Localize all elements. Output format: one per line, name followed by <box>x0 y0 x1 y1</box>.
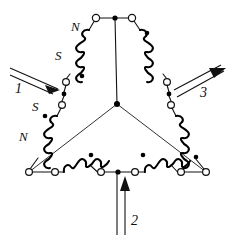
star-legs-group <box>29 104 206 172</box>
terminal-left-upper[interactable] <box>63 79 70 86</box>
terminal-right-lower[interactable] <box>168 102 175 109</box>
polarity-dot-upper-left <box>80 74 85 79</box>
lower-left-lead-top <box>57 108 61 116</box>
bottom-right-wire-c <box>172 166 178 172</box>
center-spoke-wire <box>115 18 117 104</box>
terminal-bottom-mid-left[interactable] <box>98 169 105 176</box>
phase-label-1: 1 <box>15 82 22 96</box>
terminal-left-lower[interactable] <box>59 102 66 109</box>
winding-diagram-canvas <box>0 0 236 242</box>
lower-right-lead-top <box>172 108 176 116</box>
winding-diagram-figure: N S S N 1 2 3 <box>0 0 236 242</box>
terminal-bottom-left-vertex[interactable] <box>26 169 33 176</box>
terminal-top-right[interactable] <box>128 14 135 21</box>
top-terminals-group <box>92 14 135 107</box>
node-top-center <box>112 15 117 20</box>
upper-right-to-junction <box>167 85 169 92</box>
star-leg-right-wire <box>117 104 206 172</box>
right-junction-to-terminal <box>169 96 171 101</box>
terminal-right-upper[interactable] <box>164 79 171 86</box>
terminal-bottom-mid-right[interactable] <box>132 169 139 176</box>
pole-label-s-lower: S <box>32 100 39 113</box>
polarity-dot-bottom-left <box>89 153 94 158</box>
node-star-center <box>114 101 120 107</box>
top-bus-group <box>96 18 132 104</box>
coil-lower-left <box>44 116 57 168</box>
lower-left-lead-bottom <box>30 158 38 169</box>
phase-label-3: 3 <box>200 86 207 100</box>
coil-upper-right <box>140 30 153 82</box>
left-junction-to-terminal <box>62 96 64 101</box>
upper-left-to-junction <box>64 85 66 92</box>
arrow-out-3-icon <box>209 68 226 78</box>
polarity-dot-upper-right <box>145 31 150 36</box>
arrow-in-2-icon <box>120 176 130 191</box>
phase-label-2: 2 <box>131 214 138 228</box>
terminal-bottom-left-inner[interactable] <box>52 169 59 176</box>
upper-right-branch <box>132 18 170 92</box>
polarity-dot-bottom-right <box>141 153 146 158</box>
lower-right-branch <box>167 92 204 169</box>
polarity-dot-lower-left <box>43 114 48 119</box>
bottom-left-wire-c <box>91 166 98 172</box>
star-leg-left-wire <box>29 104 117 172</box>
polarity-dot-lower-right <box>194 155 199 160</box>
terminal-bottom-right-vertex[interactable] <box>203 169 210 176</box>
terminal-top-left[interactable] <box>92 14 99 21</box>
phase-lead-2-group[interactable] <box>117 174 130 235</box>
pole-label-n-lower: N <box>19 130 28 143</box>
terminal-bottom-right-inner[interactable] <box>178 169 185 176</box>
coil-lower-right <box>176 116 189 168</box>
pole-label-n-upper: N <box>71 20 80 33</box>
pole-label-s-upper: S <box>55 49 62 62</box>
